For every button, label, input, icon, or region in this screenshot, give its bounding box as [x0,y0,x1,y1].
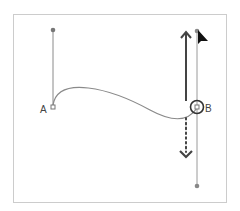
anchor-label-b: B [205,103,212,114]
handle-point-b-bottom[interactable] [195,184,200,189]
anchor-point-b[interactable] [195,105,199,109]
bezier-curve [53,87,197,118]
anchor-label-a: A [40,104,47,115]
anchor-point-a[interactable] [51,105,55,109]
cursor-arrow-icon [198,30,208,44]
bezier-diagram: A B [0,0,240,211]
handle-point-a[interactable] [51,28,56,33]
